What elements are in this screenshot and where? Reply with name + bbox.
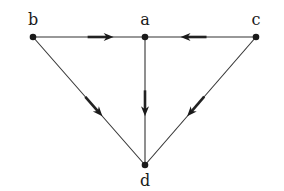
node-label-a: a (140, 10, 150, 29)
node-label-b: b (28, 10, 38, 29)
node-a (142, 34, 149, 41)
node-c (253, 34, 260, 41)
node-label-d: d (140, 171, 150, 190)
arrows-group (85, 33, 206, 116)
directed-graph: b a c d (0, 0, 284, 191)
arrow-shaft-b-d (85, 97, 98, 112)
arrow-shaft-c-d (191, 97, 204, 112)
node-d (142, 162, 149, 169)
node-b (30, 34, 37, 41)
node-label-c: c (252, 10, 261, 29)
